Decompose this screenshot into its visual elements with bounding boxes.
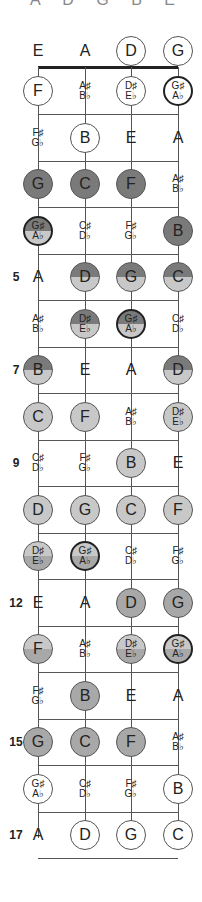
note-label-flat: B♭ [32, 324, 44, 334]
note-label-flat: A♭ [79, 556, 91, 566]
note-label: A [33, 269, 44, 285]
note-marker: D [23, 495, 53, 525]
note-marker: G♯A♭ [70, 541, 100, 571]
note-marker: F [23, 76, 53, 106]
note-label-flat: D♭ [125, 556, 137, 566]
note-marker: C♯D♭ [23, 448, 53, 478]
note-marker: A♯B♭ [70, 76, 100, 106]
fret-line [38, 626, 178, 627]
note-label: B [173, 223, 184, 239]
note-label: G [172, 595, 184, 611]
fret-line [38, 579, 178, 580]
note-label: C [79, 176, 91, 192]
note-label: C [172, 827, 184, 843]
note-label: G♯ [32, 779, 45, 789]
note-marker: E [163, 448, 193, 478]
note-marker: G [163, 588, 193, 618]
note-marker: G [163, 36, 193, 66]
note-label: B [173, 781, 184, 797]
note-label: G [125, 827, 137, 843]
note-marker: C [70, 169, 100, 199]
note-label: F♯ [125, 779, 136, 789]
note-label: G [125, 269, 137, 285]
note-marker: C♯D♭ [163, 309, 193, 339]
note-marker: E [116, 681, 146, 711]
note-label-flat: A♭ [172, 649, 184, 659]
note-marker: A [163, 681, 193, 711]
fret-line [38, 486, 178, 487]
note-marker: F [23, 634, 53, 664]
note-label-flat: G♭ [32, 138, 45, 148]
note-marker: A♯B♭ [163, 727, 193, 757]
fret-line [38, 719, 178, 720]
note-marker: F♯G♭ [116, 774, 146, 804]
note-marker: F [163, 495, 193, 525]
note-marker: G [116, 262, 146, 292]
note-label: B [80, 688, 91, 704]
note-label: A [80, 43, 91, 59]
note-marker: C♯D♭ [70, 774, 100, 804]
note-label: C♯ [172, 314, 184, 324]
note-label-flat: D♭ [79, 789, 91, 799]
note-label-flat: B♭ [172, 742, 184, 752]
note-label-flat: G♭ [172, 556, 185, 566]
note-label: A [126, 362, 137, 378]
note-label: B [80, 130, 91, 146]
fret-line [38, 812, 178, 813]
note-label: F♯ [125, 221, 136, 231]
note-label: G [172, 43, 184, 59]
note-label-flat: A♭ [125, 324, 137, 334]
note-marker: C [163, 820, 193, 850]
note-label: C♯ [79, 779, 91, 789]
note-label: G♯ [125, 314, 138, 324]
note-label: F [173, 502, 183, 518]
note-label: A♯ [125, 407, 137, 417]
fret-line [38, 393, 178, 394]
note-marker: E [70, 355, 100, 385]
note-label: E [80, 362, 91, 378]
note-label: F [33, 641, 43, 657]
note-label: A [173, 130, 184, 146]
note-label: F [126, 176, 136, 192]
note-marker: A♯B♭ [116, 402, 146, 432]
note-label: E [33, 43, 44, 59]
note-marker: D [70, 820, 100, 850]
note-marker: A♯B♭ [163, 169, 193, 199]
note-marker: A♯B♭ [70, 634, 100, 664]
note-marker: A [70, 36, 100, 66]
note-marker: B [70, 123, 100, 153]
note-marker: C [70, 727, 100, 757]
note-marker: D [116, 36, 146, 66]
note-marker: G♯A♭ [23, 774, 53, 804]
note-label-flat: G♭ [79, 463, 92, 473]
note-label: G♯ [32, 221, 45, 231]
note-marker: F [70, 402, 100, 432]
note-marker: G♯A♭ [163, 634, 193, 664]
note-marker: G [23, 169, 53, 199]
note-label-flat: G♭ [125, 789, 138, 799]
note-label-flat: A♭ [32, 789, 44, 799]
note-label: E [33, 595, 44, 611]
note-label: G [32, 176, 44, 192]
note-label-flat: E♭ [125, 649, 137, 659]
fret-line [38, 114, 178, 115]
note-marker: C [163, 262, 193, 292]
note-label: B [33, 362, 44, 378]
note-label: A [173, 688, 184, 704]
note-label: C [32, 409, 44, 425]
fret-line [38, 672, 178, 673]
note-marker: C [23, 402, 53, 432]
note-marker: B [163, 774, 193, 804]
note-marker: G♯A♭ [23, 216, 53, 246]
note-label-flat: D♭ [79, 231, 91, 241]
note-label-flat: B♭ [79, 91, 91, 101]
note-label: A [80, 595, 91, 611]
note-label: E [173, 455, 184, 471]
clipped-header-text: A D G B E A C [30, 0, 190, 5]
note-label-flat: B♭ [79, 649, 91, 659]
note-marker: D♯E♭ [70, 309, 100, 339]
note-label: C♯ [79, 221, 91, 231]
note-label: B [126, 455, 137, 471]
note-marker: F [116, 169, 146, 199]
note-marker: A [70, 588, 100, 618]
